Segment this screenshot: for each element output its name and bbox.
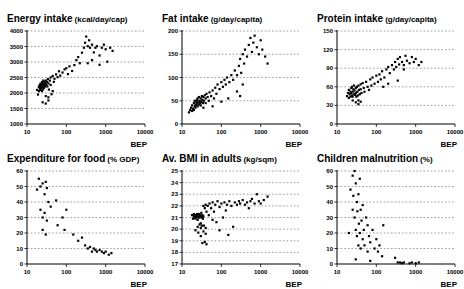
data-point bbox=[357, 244, 359, 246]
data-point bbox=[205, 211, 207, 213]
data-point bbox=[401, 61, 403, 63]
data-point bbox=[205, 102, 207, 104]
data-point bbox=[391, 64, 393, 66]
y-tick-label: 0 bbox=[20, 261, 24, 267]
chart-title-unit: (g/day/capita) bbox=[211, 15, 263, 24]
data-point bbox=[200, 104, 202, 106]
data-point bbox=[404, 55, 406, 57]
data-point bbox=[371, 76, 373, 78]
data-point bbox=[58, 70, 60, 72]
data-point bbox=[363, 91, 365, 93]
data-point bbox=[238, 65, 240, 67]
data-point bbox=[193, 109, 195, 111]
data-point bbox=[212, 89, 214, 91]
chart-title-text: Fat intake bbox=[162, 13, 209, 24]
data-point bbox=[357, 193, 359, 195]
data-point bbox=[203, 100, 205, 102]
data-point bbox=[353, 216, 355, 218]
data-point bbox=[260, 202, 262, 204]
data-point bbox=[363, 229, 365, 231]
data-point bbox=[403, 261, 405, 263]
data-point bbox=[246, 55, 248, 57]
data-point bbox=[203, 225, 205, 227]
data-point bbox=[110, 252, 112, 254]
gridlines bbox=[182, 31, 300, 101]
y-tick-label: 0 bbox=[330, 261, 334, 267]
y-tick-label: 120 bbox=[323, 47, 334, 53]
data-point bbox=[239, 202, 241, 204]
data-point bbox=[387, 66, 389, 68]
axes bbox=[182, 30, 300, 124]
data-point bbox=[234, 69, 236, 71]
y-tick-label: 30 bbox=[326, 102, 333, 108]
data-point bbox=[236, 90, 238, 92]
data-point bbox=[205, 243, 207, 245]
data-point bbox=[197, 232, 199, 234]
data-point bbox=[357, 99, 359, 101]
panel-children-malnutrition: Children malnutrition(%) 010203040506010… bbox=[310, 145, 464, 289]
data-point bbox=[351, 86, 353, 88]
y-tick-label: 10 bbox=[326, 246, 333, 252]
chart-title-unit: (kcal/day/cap) bbox=[75, 15, 128, 24]
data-point bbox=[101, 251, 103, 253]
data-point bbox=[202, 218, 204, 220]
data-point bbox=[408, 262, 410, 264]
data-point bbox=[194, 107, 196, 109]
scatter-plot-fat: 05010015020010100100010000BEP bbox=[155, 26, 309, 150]
x-axis-title: BEP bbox=[131, 280, 148, 289]
data-point bbox=[236, 204, 238, 206]
data-point bbox=[242, 83, 244, 85]
data-point bbox=[232, 226, 234, 228]
data-point bbox=[415, 58, 417, 60]
data-point bbox=[394, 61, 396, 63]
data-points bbox=[36, 178, 113, 256]
data-point bbox=[244, 204, 246, 206]
x-tick-label: 10 bbox=[334, 129, 341, 135]
data-point bbox=[45, 102, 47, 104]
data-point bbox=[65, 209, 67, 211]
data-point bbox=[212, 219, 214, 221]
data-point bbox=[45, 181, 47, 183]
data-point bbox=[373, 83, 375, 85]
data-point bbox=[385, 68, 387, 70]
x-tick-label: 100 bbox=[216, 269, 227, 275]
data-point bbox=[360, 101, 362, 103]
y-tick-label: 4000 bbox=[10, 28, 24, 34]
data-point bbox=[380, 78, 382, 80]
data-point bbox=[360, 88, 362, 90]
data-point bbox=[358, 223, 360, 225]
chart-title-text: Expenditure for food bbox=[7, 153, 105, 164]
data-point bbox=[243, 62, 245, 64]
data-point bbox=[55, 199, 57, 201]
data-point bbox=[189, 109, 191, 111]
data-point bbox=[403, 68, 405, 70]
data-point bbox=[105, 48, 107, 50]
data-point bbox=[205, 227, 207, 229]
chart-title-text: Protein intake bbox=[317, 13, 383, 24]
tick-labels: 05010015020010100100010000 bbox=[168, 28, 309, 135]
data-point bbox=[202, 215, 204, 217]
data-point bbox=[89, 246, 91, 248]
data-point bbox=[108, 254, 110, 256]
y-tick-label: 20 bbox=[326, 230, 333, 236]
y-tick-label: 23 bbox=[171, 191, 178, 197]
x-tick-label: 100 bbox=[61, 129, 72, 135]
y-tick-label: 150 bbox=[168, 51, 179, 57]
data-point bbox=[204, 241, 206, 243]
data-point bbox=[353, 84, 355, 86]
data-point bbox=[393, 68, 395, 70]
data-point bbox=[365, 81, 367, 83]
data-point bbox=[105, 251, 107, 253]
chart-title-bmi: Av. BMI in adults(kg/sqm) bbox=[155, 145, 310, 166]
data-point bbox=[223, 79, 225, 81]
data-point bbox=[48, 88, 50, 90]
data-point bbox=[397, 80, 399, 82]
data-point bbox=[42, 216, 44, 218]
y-tick-label: 25 bbox=[171, 168, 178, 174]
data-point bbox=[202, 205, 204, 207]
y-tick-label: 50 bbox=[326, 184, 333, 190]
data-point bbox=[363, 87, 365, 89]
data-point bbox=[249, 37, 251, 39]
data-point bbox=[369, 78, 371, 80]
data-point bbox=[96, 45, 98, 47]
